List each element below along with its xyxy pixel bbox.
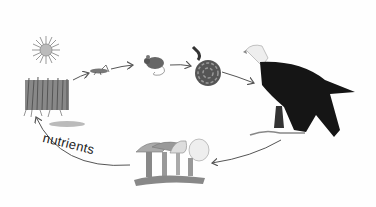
grass-icon [24,77,69,117]
eagle-icon [243,45,355,137]
grasshopper-icon [90,65,109,75]
diagram-canvas [0,0,376,207]
snake-icon [193,47,221,86]
mouse-icon [144,55,165,75]
food-chain-diagram: nutrients [0,0,376,207]
sun-icon [32,36,60,64]
mushrooms-icon [134,139,209,186]
soil-patch [49,121,85,127]
